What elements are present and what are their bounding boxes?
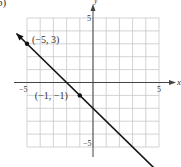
x-tick-label: 5 — [157, 85, 161, 94]
part-label: b) — [0, 0, 7, 9]
y-tick-label: 5 — [87, 14, 91, 23]
y-axis-arrow-icon — [91, 4, 96, 11]
coordinate-plane: (−5, 3)(−1, −1) b) x y −555−5 — [0, 0, 181, 167]
point-label: (−5, 3) — [32, 34, 59, 46]
x-axis-arrow-icon — [169, 80, 176, 85]
y-axis-label: y — [93, 0, 98, 5]
x-axis-label: x — [176, 77, 181, 87]
data-point — [78, 93, 82, 97]
point-label: (−1, −1) — [35, 90, 68, 102]
y-tick-label: −5 — [83, 139, 92, 148]
data-point — [25, 42, 29, 46]
x-tick-label: −5 — [19, 85, 28, 94]
